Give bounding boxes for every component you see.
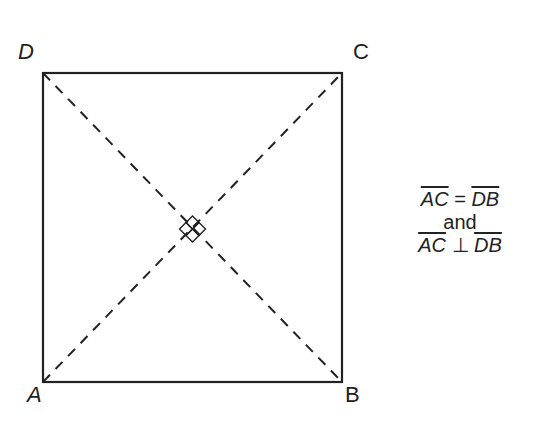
equals-symbol: = [454,188,466,210]
vertex-label-d: D [18,41,34,63]
condition-equal: AC = DB [395,188,525,211]
condition-and: and [395,211,525,234]
condition-perpendicular: AC ⊥ DB [395,234,525,257]
conditions-text: AC = DB and AC ⊥ DB [395,188,525,257]
segment-db: DB [474,234,502,256]
segment-ac: AC [421,188,449,210]
vertex-label-c: C [353,41,369,63]
vertex-label-b: B [345,384,360,406]
vertex-label-a: A [27,384,42,406]
segment-db: DB [471,188,499,210]
segment-ac: AC [418,234,446,256]
perpendicular-symbol: ⊥ [452,234,469,256]
